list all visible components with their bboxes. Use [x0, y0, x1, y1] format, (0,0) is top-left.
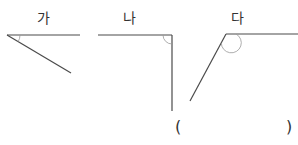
- answer-close-paren: ): [286, 118, 292, 136]
- figure-label-ga: 가: [37, 10, 50, 26]
- figure-label-na: 나: [123, 10, 136, 26]
- figure-na-angle: [98, 35, 172, 111]
- answer-blank[interactable]: [186, 118, 282, 136]
- answer-open-paren: (: [175, 118, 181, 136]
- figure-ga-angle: [7, 35, 80, 73]
- figure-da-angle: [190, 34, 298, 101]
- figure-label-da: 다: [231, 10, 244, 26]
